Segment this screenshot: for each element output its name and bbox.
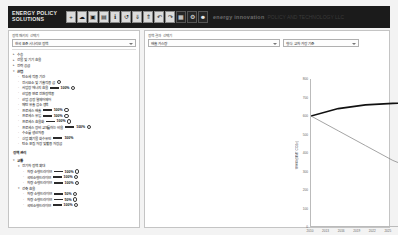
x-axis-tick-label: 2013 (322, 229, 329, 233)
policy-toggle-knob[interactable] (57, 80, 61, 84)
policy-toggle-knob[interactable] (75, 181, 79, 185)
settings-icon[interactable]: ⚙ (187, 11, 197, 23)
policy-slider[interactable] (65, 126, 74, 128)
policy-value: 100% (61, 86, 70, 90)
policy-tree-item-label: 탄소세 적용 기간 (22, 74, 45, 79)
chevron-down-icon (273, 43, 277, 45)
save-icon[interactable]: ▣ (88, 11, 98, 23)
policy-slider[interactable] (54, 171, 63, 173)
policy-tree-item-label: 산업용 연료 전환 정책중 (22, 91, 54, 96)
results-label: 정책 결과 선택기 (145, 31, 389, 39)
chevron-down-icon (352, 43, 356, 45)
output-select[interactable]: 배출 가스량 (148, 39, 280, 47)
y-axis-tick-label: 500 (303, 133, 308, 137)
reset-icon[interactable]: ↺ (121, 11, 131, 23)
policy-package-panel: 정책 패키지 선택기 한국 표준 시나리오 정책 ▸수송▸건물 및 기기 효율▸… (8, 30, 140, 228)
policy-tree-item-label: 국민소형드라이브 (27, 203, 51, 208)
add-policy-icon[interactable]: + (66, 11, 76, 23)
policy-slider[interactable] (54, 193, 63, 195)
chevron-down-icon (129, 43, 133, 45)
unit-select-value: 형식: 교차 가장 기준 (286, 41, 314, 46)
policy-value: 100% (54, 114, 63, 118)
policy-tree-item-label: 전기차 정책 확대 (22, 163, 45, 168)
policy-toggle-knob[interactable] (74, 203, 78, 207)
scenario-select[interactable]: 한국 표준 시나리오 정책 (12, 39, 136, 47)
brand-subtext: POLICY AND TECHNOLOGY LLC (268, 14, 345, 20)
info-icon[interactable]: ℹ (110, 11, 120, 23)
policy-tree-item-label: 건물 및 기기 효율 (17, 57, 41, 62)
download-icon[interactable]: ⇓ (132, 11, 142, 23)
x-axis-tick-label: 2025 (384, 229, 391, 233)
policy-tree-item-label: 프로세스 효율화 (22, 119, 44, 124)
policy-slider[interactable] (53, 204, 62, 206)
policy-tree-item-label: 전력 공급 (17, 63, 30, 68)
policy-toggle-knob[interactable] (67, 119, 71, 123)
policy-tree-item-label: 신업 폐기물 회수 유인 (22, 136, 51, 141)
policy-slider[interactable] (46, 121, 55, 123)
brand-text: energy innovation (213, 14, 265, 20)
chart-svg (311, 79, 398, 227)
policy-toggle-knob[interactable] (71, 86, 75, 90)
results-panel: 정책 결과 선택기 배출 가스량 형식: 교차 가장 기준 배출량 (MMT C… (144, 30, 390, 228)
policy-package-label: 정책 패키지 선택기 (9, 31, 139, 39)
policy-toggle-knob[interactable] (73, 192, 77, 196)
policy-slider[interactable] (54, 199, 63, 201)
output-select-row: 배출 가스량 형식: 교차 가장 기준 (145, 39, 389, 47)
policy-value: 100% (57, 119, 66, 123)
output-select-value: 배출 가스량 (151, 41, 167, 46)
policy-toggle-knob[interactable] (87, 125, 91, 129)
policy-tree-item-label: 교통 (17, 158, 23, 163)
policy-slider[interactable] (53, 137, 62, 139)
policy-toggle-knob[interactable] (75, 169, 79, 173)
x-axis-ticks: 2010201320162019202220252028203120342037… (310, 229, 398, 235)
policy-tree-item-label: 차량 소형드라이브 (27, 180, 52, 185)
policy-tree-item[interactable]: ·국민소형드라이브100% (13, 202, 136, 208)
chart-series-line (311, 116, 398, 221)
policy-group-header: 정책 관리 (9, 147, 139, 156)
policy-slider[interactable] (43, 115, 52, 117)
policy-tree-item-label: 메탄 유출 감소 정책 (22, 102, 48, 107)
policy-value: 100% (64, 175, 73, 179)
policy-tree-item-label: 국민소형드라이브 (27, 175, 51, 180)
y-axis-tick-label: 100 (303, 207, 308, 211)
unit-select[interactable]: 형식: 교차 가장 기준 (283, 39, 359, 47)
upload-icon[interactable]: ⇑ (143, 11, 153, 23)
policy-tree-item-label: 산업 공정 열제어 제어 (22, 97, 51, 102)
compare-icon[interactable]: ▤ (99, 11, 109, 23)
y-axis-tick-label: 200 (303, 188, 308, 192)
policy-slider[interactable] (54, 182, 63, 184)
y-axis-tick-label: 700 (303, 96, 308, 100)
policy-slider[interactable] (53, 176, 62, 178)
policy-slider[interactable] (50, 87, 59, 89)
policy-toggle-knob[interactable] (64, 108, 68, 112)
policy-toggle-knob[interactable] (74, 175, 78, 179)
chart-icon[interactable]: ▦ (176, 11, 186, 23)
policy-value: 100% (54, 108, 63, 112)
y-axis-tick-label: 400 (303, 151, 308, 155)
chart-plot-area[interactable]: 2030년 배출 총량 감축 정책 확대목표2050년 배출 총량 감축 정책 … (310, 79, 398, 227)
x-axis-tick-label: 2022 (369, 229, 376, 233)
x-axis-tick-label: 2016 (338, 229, 345, 233)
policy-tree-item-label: 프로세스 배출 (22, 108, 41, 113)
redo-icon[interactable]: ↷ (165, 11, 175, 23)
app-root: ENERGY POLICY SOLUTIONS +☁▣▤ℹ↺⇓⇑↶↷▦⚙☻ en… (0, 0, 398, 235)
policy-tree-item-label: 차량 소형드라이브 (27, 169, 52, 174)
y-axis-tick-label: 800 (303, 77, 308, 81)
policy-tree-item-label: 차량 소형드라이브 (27, 191, 52, 196)
app-header: ENERGY POLICY SOLUTIONS +☁▣▤ℹ↺⇓⇑↶↷▦⚙☻ en… (8, 6, 390, 28)
policy-tree: ▸수송▸건물 및 기기 효율▸전력 공급▾산업·탄소세 적용 기간·전시요소 및… (9, 50, 139, 147)
policy-value: 100% (65, 181, 74, 185)
policy-toggle-knob[interactable] (64, 114, 68, 118)
scenario-select-row: 한국 표준 시나리오 정책 (9, 39, 139, 47)
app-logo[interactable]: ENERGY POLICY SOLUTIONS (8, 11, 64, 22)
policy-value: 50% (65, 198, 72, 202)
user-icon[interactable]: ☻ (198, 11, 208, 23)
cloud-icon[interactable]: ☁ (77, 11, 87, 23)
policy-toggle-knob[interactable] (73, 197, 77, 201)
undo-icon[interactable]: ↶ (154, 11, 164, 23)
policy-value: 100% (76, 125, 85, 129)
policy-tree-item-label: 전시요소 및 기술 적용 금 (22, 80, 55, 85)
policy-slider[interactable] (43, 109, 52, 111)
y-axis-ticks: 0100200300400500600700800 (295, 79, 308, 227)
policy-tree-item-label: 프로세스 장비 교체를하는 비율 (22, 125, 63, 130)
